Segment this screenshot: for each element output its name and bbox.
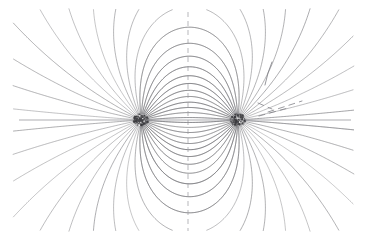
figure-background: [0, 0, 367, 241]
field-line-canvas: [0, 0, 367, 241]
dipole-figure: [0, 0, 367, 241]
